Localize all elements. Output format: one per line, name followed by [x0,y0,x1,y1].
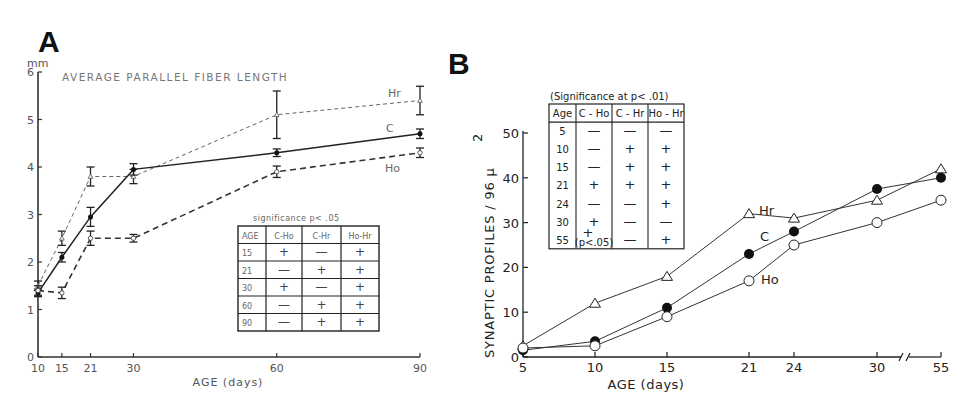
y-tick-label: 20 [502,260,519,275]
table-cell: — [588,196,601,211]
series-label-ho: Ho [761,272,779,287]
table-cell: 21 [556,180,569,191]
data-point [744,249,754,259]
table-cell: 24 [556,199,569,210]
x-tick-label: 55 [933,360,950,375]
table-header-cell: Ho - Hr [648,108,684,119]
data-point [872,218,882,228]
x-tick-label: 10 [587,360,604,375]
data-point [789,227,799,237]
table-cell: — [588,141,601,156]
data-point [518,343,528,353]
data-point [590,341,600,351]
table-cell: + [661,232,672,247]
panel-label-b: B [448,47,470,80]
table-cell: — [624,214,637,229]
data-point [744,276,754,286]
x-tick-label: 5 [519,360,527,375]
data-point [936,164,947,173]
table-cell: + [625,141,636,156]
table-caption: (Significance at p< .01) [550,91,669,102]
data-point [936,173,946,183]
data-point [744,209,755,218]
table-cell: 15 [556,162,569,173]
y-tick-label: 10 [502,305,519,320]
table-cell: — [660,123,673,138]
data-point [936,195,946,205]
table-cell: — [624,232,637,247]
y-tick-label: 0 [511,350,519,365]
table-cell: + [661,141,672,156]
y-tick-label: 30 [502,216,519,231]
data-point [872,195,883,204]
table-cell: — [624,123,637,138]
table-cell: 55 [556,235,569,246]
series-label-c: C [760,229,769,244]
table-cell: — [588,123,601,138]
table-cell: + [625,177,636,192]
table-cell: 10 [556,144,569,155]
data-point [662,312,672,322]
table-cell-note: (p<.05) [575,237,614,248]
table-header-cell: Age [553,108,572,119]
table-cell: 5 [559,126,565,137]
x-tick-label: 24 [786,360,803,375]
table-cell: + [625,159,636,174]
x-tick-label: 21 [741,360,758,375]
table-cell: — [588,159,601,174]
x-tick-label: 15 [659,360,676,375]
series-label-hr: Hr [759,203,775,218]
table-cell: 30 [556,217,569,228]
table-header-cell: C - Ho [579,108,610,119]
table-cell: + [661,196,672,211]
y-axis-label: SYNAPTIC PROFILES / 96 μ [482,167,497,358]
data-point [872,184,882,194]
table-header-cell: C - Hr [616,108,645,119]
table-cell: — [660,214,673,229]
y-tick-label: 40 [502,171,519,186]
table-cell: + [589,177,600,192]
y-axis-label-superscript: 2 [470,134,485,142]
x-tick-label: 30 [869,360,886,375]
y-tick-label: 50 [502,126,519,141]
x-axis-label: AGE (days) [608,377,685,392]
data-point [590,298,601,307]
data-point [789,240,799,250]
table-cell: + [661,177,672,192]
table-cell: + [661,159,672,174]
chart-b-synaptic-profiles: B010203040505101521243055AGE (days)SYNAP… [0,0,977,414]
data-point [662,271,673,280]
table-cell: — [624,196,637,211]
